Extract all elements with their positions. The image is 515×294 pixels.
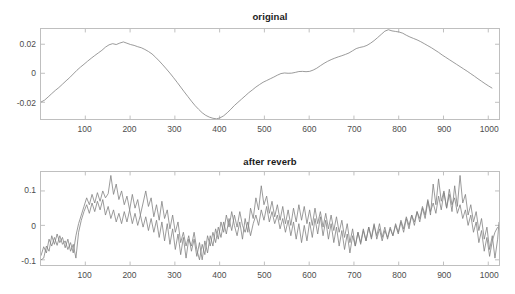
x-tick-label: 800: [379, 270, 419, 280]
x-tick-label: 300: [154, 124, 194, 134]
x-tick-label: 1000: [469, 270, 509, 280]
x-tick-label: 400: [199, 124, 239, 134]
x-tick-label: 600: [289, 124, 329, 134]
y-tick-label: 0: [4, 69, 36, 78]
subplot-original: original 0.020-0.02 10020030040050060070…: [0, 0, 515, 147]
x-axis-ticks-after-reverb: 1002003004005006007008009001000: [40, 270, 500, 282]
x-tick-label: 500: [244, 270, 284, 280]
x-tick-label: 1000: [469, 124, 509, 134]
x-tick-label: 100: [65, 124, 105, 134]
waveform-original: [41, 29, 499, 119]
x-tick-label: 300: [154, 270, 194, 280]
y-tick-label: 0: [4, 221, 36, 230]
y-axis-ticks-original: 0.020-0.02: [0, 28, 36, 120]
x-tick-label: 400: [199, 270, 239, 280]
x-tick-label: 900: [424, 124, 464, 134]
matlab-figure: original 0.020-0.02 10020030040050060070…: [0, 0, 515, 294]
x-tick-label: 800: [379, 124, 419, 134]
x-tick-label: 500: [244, 124, 284, 134]
y-tick-label: -0.1: [4, 256, 36, 265]
x-tick-label: 700: [334, 124, 374, 134]
y-tick-label: -0.02: [4, 98, 36, 107]
y-tick-label: 0.02: [4, 39, 36, 48]
y-tick-label: 0.1: [4, 186, 36, 195]
subplot-after-reverb: after reverb 0.10-0.1 100200300400500600…: [0, 147, 515, 294]
x-tick-label: 600: [289, 270, 329, 280]
x-axis-ticks-original: 1002003004005006007008009001000: [40, 124, 500, 136]
x-tick-label: 200: [109, 124, 149, 134]
series-line: [41, 30, 492, 119]
x-tick-label: 700: [334, 270, 374, 280]
x-tick-label: 900: [424, 270, 464, 280]
plot-title-after-reverb: after reverb: [40, 156, 500, 167]
y-axis-ticks-after-reverb: 0.10-0.1: [0, 171, 36, 266]
series-line: [41, 189, 498, 260]
plot-area-original: [40, 28, 500, 120]
x-tick-label: 100: [65, 270, 105, 280]
plot-title-original: original: [40, 11, 500, 22]
series-line: [41, 175, 499, 259]
waveform-after-reverb: [41, 172, 499, 265]
plot-area-after-reverb: [40, 171, 500, 266]
x-tick-label: 200: [109, 270, 149, 280]
